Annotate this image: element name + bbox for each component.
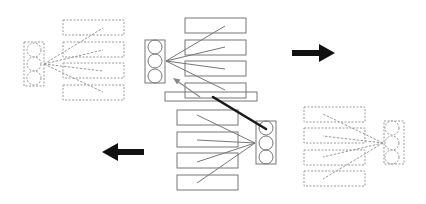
diagram-svg [0,0,426,204]
top-left-ghost-circle-3 [27,71,41,85]
top-left-ghost-rect-3 [63,63,124,78]
top-left-ghost-circle-2 [27,57,41,71]
small-arrow-head-icon [173,78,180,84]
bottom-center-rect-2 [177,132,238,147]
bottom-right-ghost-rect-4 [304,171,365,186]
top-left-ghost-circle-1 [27,43,41,57]
bottom-right-ghost-circle-2 [385,136,399,150]
bottom-center-wire-4 [197,143,255,183]
top-center-rect-3 [185,61,246,76]
top-left-ghost-rect-1 [63,20,124,35]
bottom-right-ghost-circle-3 [385,150,399,164]
bottom-center-wire-2 [197,140,255,143]
top-center-circle-2 [148,54,162,68]
bottom-center-wire-1 [197,115,255,143]
diagram-canvas [0,0,426,204]
top-center-wire-2 [166,47,225,61]
bottom-center-circle-2 [259,136,273,150]
thick-connector-line [213,97,266,129]
top-center-wire-1 [166,26,225,61]
bottom-right-ghost-wire-2 [323,136,383,143]
top-center-rect-1 [185,18,246,33]
bottom-right-ghost-connector-box [384,121,404,164]
top-center-circle-3 [148,69,162,83]
bottom-right-ghost-wire-4 [323,143,383,179]
top-left-ghost-rect-2 [63,42,124,57]
top-left-ghost-rect-4 [63,85,124,100]
bottom-center-circle-3 [259,150,273,164]
partial-rectangle [165,92,257,101]
arrow-left-left-arrow-icon [102,143,144,161]
top-left-ghost-wire-3 [44,64,103,71]
top-center-circle-1 [148,40,162,54]
bottom-right-ghost-circle-1 [385,121,399,135]
bottom-center-rect-1 [177,110,238,125]
bottom-center-rect-4 [177,175,238,190]
top-left-ghost-wire-1 [44,28,103,64]
top-center-rect-2 [185,40,246,55]
arrow-right-right-arrow-icon [292,44,335,62]
bottom-right-ghost-rect-3 [304,150,365,165]
